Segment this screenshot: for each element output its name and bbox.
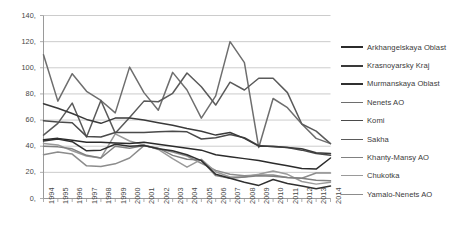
legend-label: Arkhangelskaya Oblast (367, 43, 446, 52)
legend-label: Krasnoyarsky Kraj (367, 61, 429, 70)
y-tick-label: 20, (2, 167, 36, 176)
legend-item[interactable]: Nenets AO (341, 93, 473, 111)
plot-area: 140,120,100,80,60,40,20,0, 1994199519961… (0, 0, 340, 252)
legend-label: Nenets AO (367, 98, 404, 107)
legend-item[interactable]: Komi (341, 112, 473, 130)
x-tick-label: 2002 (162, 187, 171, 204)
x-tick-label: 1994 (47, 187, 56, 204)
legend-color-swatch (341, 46, 363, 48)
legend-item[interactable]: Khanty-Mansy AO (341, 148, 473, 166)
legend-label: Komi (367, 116, 385, 125)
legend-color-swatch (341, 102, 363, 103)
x-tick-label: 2000 (133, 187, 142, 204)
x-tick-label: 2009 (262, 187, 271, 204)
y-tick-label: 40, (2, 141, 36, 150)
legend-color-swatch (341, 194, 363, 195)
x-tick-label: 1997 (90, 187, 99, 204)
legend-label: Chukotka (367, 171, 399, 180)
legend-color-swatch (341, 120, 363, 121)
x-tick-label: 2013 (319, 187, 328, 204)
legend-label: Khanty-Mansy AO (367, 153, 429, 162)
legend-item[interactable]: Arkhangelskaya Oblast (341, 38, 473, 56)
x-tick-label: 2007 (233, 187, 242, 204)
x-tick-label: 2012 (305, 187, 314, 204)
x-tick-label: 2003 (176, 187, 185, 204)
x-tick-label: 2011 (291, 188, 300, 204)
line-chart: 140,120,100,80,60,40,20,0, 1994199519961… (0, 0, 473, 252)
y-tick-label: 0, (2, 194, 36, 203)
y-tick-label: 140, (2, 11, 36, 20)
data-series-group (44, 42, 331, 189)
y-tick-label: 60, (2, 115, 36, 124)
chart-legend: Arkhangelskaya OblastKrasnoyarsky KrajMu… (341, 38, 473, 204)
y-tick-label: 100, (2, 63, 36, 72)
y-tick-label: 120, (2, 37, 36, 46)
y-tick-label: 80, (2, 89, 36, 98)
legend-item[interactable]: Chukotka (341, 167, 473, 185)
x-tick-label: 2001 (147, 187, 156, 204)
x-tick-label: 2004 (190, 187, 199, 204)
legend-color-swatch (341, 175, 363, 176)
legend-item[interactable]: Sakha (341, 130, 473, 148)
x-tick-label: 2010 (276, 187, 285, 204)
legend-item[interactable]: Krasnoyarsky Kraj (341, 56, 473, 74)
legend-color-swatch (341, 157, 363, 158)
x-tick-label: 1995 (61, 187, 70, 204)
legend-label: Sakha (367, 135, 389, 144)
legend-color-swatch (341, 65, 363, 67)
legend-color-swatch (341, 139, 363, 140)
plot-svg (0, 0, 340, 252)
series-line-arkhangelskaya-oblast (44, 138, 331, 169)
legend-item[interactable]: Murmanskaya Oblast (341, 75, 473, 93)
legend-label: Murmanskaya Oblast (367, 79, 440, 88)
x-tick-label: 2008 (248, 187, 257, 204)
legend-label: Yamalo-Nenets AO (367, 190, 432, 199)
legend-color-swatch (341, 83, 363, 85)
x-tick-label: 2005 (205, 187, 214, 204)
x-tick-label: 1999 (119, 187, 128, 204)
x-tick-label: 2006 (219, 187, 228, 204)
x-tick-label: 1996 (75, 187, 84, 204)
x-tick-label: 1998 (104, 187, 113, 204)
legend-item[interactable]: Yamalo-Nenets AO (341, 185, 473, 203)
